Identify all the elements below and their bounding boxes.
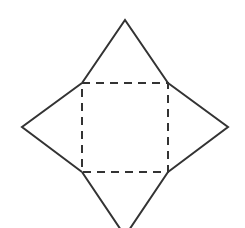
square-base-dashed — [82, 83, 168, 172]
triangle-face-right — [168, 83, 228, 172]
pyramid-net-diagram — [0, 0, 245, 228]
triangle-face-top — [82, 20, 168, 83]
triangle-face-left — [22, 83, 82, 172]
triangle-face-bottom — [82, 172, 168, 228]
